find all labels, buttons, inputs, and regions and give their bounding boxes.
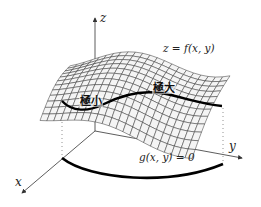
z-axis-label: z xyxy=(100,12,106,24)
y-axis-label: y xyxy=(229,140,236,152)
x-axis-label: x xyxy=(15,176,22,188)
surface-label: z = f(x, y) xyxy=(163,43,215,54)
minimum-label: 極小 xyxy=(79,96,103,107)
lagrange-diagram: z y x z = f(x, y) g(x, y) = 0 極小 極大 xyxy=(0,0,261,207)
maximum-label: 極大 xyxy=(152,83,176,94)
x-axis xyxy=(22,131,95,193)
constraint-label: g(x, y) = 0 xyxy=(139,152,195,163)
